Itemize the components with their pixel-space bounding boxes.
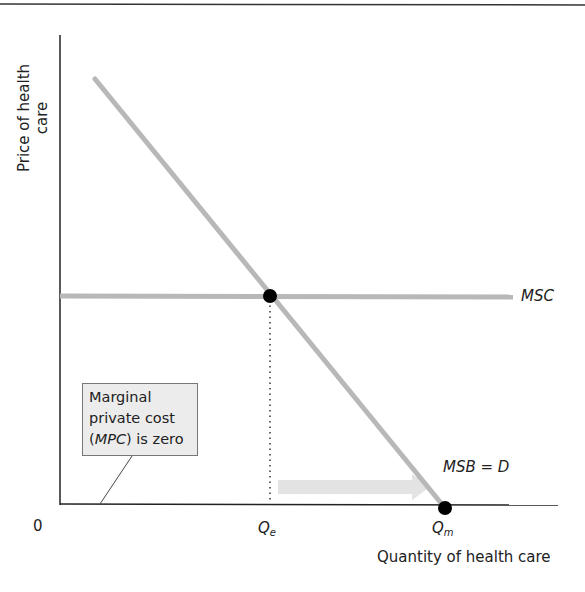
qm-sub: m [444,527,454,538]
x-axis [60,504,558,505]
msc-label: MSC [521,287,554,305]
y-axis-label: Price of health care [15,48,51,188]
mpc-abbr: MPC [95,431,126,447]
mpc-text-line2: private cost [89,408,191,429]
market-equilibrium-dot [438,501,452,515]
qe-tick-label: Qe [258,519,276,538]
mpc-text-line3: (MPC) is zero [89,429,191,450]
mpc-text-line1: Marginal [89,387,191,408]
mpc-leader-line [100,456,132,504]
chart-canvas [0,0,585,592]
mpc-rest: ) is zero [126,431,184,447]
msb-demand-label: MSB = D [443,458,509,476]
mpc-callout-box: Marginal private cost (MPC) is zero [82,383,198,456]
qm-main: Q [432,519,444,537]
msc-curve [60,296,513,297]
qe-main: Q [258,519,270,537]
efficient-equilibrium-dot [263,289,277,303]
x-axis-label: Quantity of health care [377,548,551,566]
origin-label: 0 [33,517,43,535]
qe-sub: e [270,527,276,538]
shift-arrow [278,474,430,500]
qm-tick-label: Qm [432,519,454,538]
top-rule [0,4,585,5]
